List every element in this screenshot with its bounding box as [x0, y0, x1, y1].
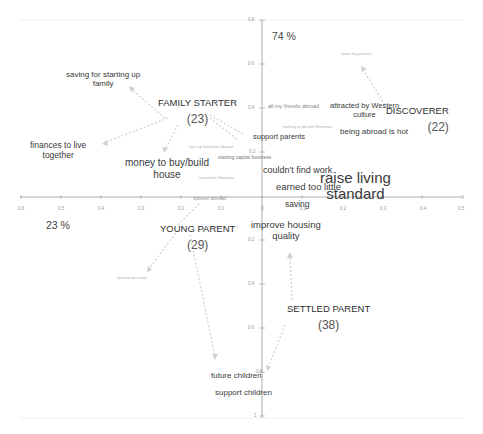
x-tick: 0.2: [178, 206, 184, 211]
label-line: quality: [272, 230, 299, 241]
point-label-finances: finances to live together: [30, 141, 86, 161]
y-tick: 1: [254, 413, 257, 418]
label-line: money to buy/build: [125, 157, 209, 168]
point-label-startup-abroad: start up business abroad: [189, 145, 233, 150]
x-tick: 0.4: [420, 206, 426, 211]
y-tick: 0.4: [248, 105, 254, 110]
x-tick: 0.6: [18, 206, 24, 211]
x-tick: 0.5: [58, 206, 64, 211]
point-label-support-parents: support parents: [253, 133, 305, 142]
cluster-name: YOUNG PARENT: [160, 223, 235, 234]
point-label-improve-housing: improve housing quality: [251, 220, 321, 242]
point-label-saving-family: saving for starting up family: [66, 70, 140, 88]
y-tick: 0.4: [248, 281, 254, 286]
point-label-spouse-lost-work: spouse lost work: [117, 276, 147, 281]
label-line: culture: [353, 110, 376, 119]
x-tick: 0.3: [138, 206, 144, 211]
cluster-young-parent: YOUNG PARENT (29): [160, 222, 235, 254]
point-label-nothing-romania: nothing to do with Romania: [283, 125, 331, 130]
upper-percent: 74 %: [272, 30, 296, 42]
x-axis: [20, 195, 463, 199]
x-tick: 0.1: [218, 206, 224, 211]
point-label-married-romania: married in Romania: [199, 176, 234, 181]
y-tick: 0.6: [248, 325, 254, 330]
cluster-name: SETTLED PARENT: [287, 303, 370, 314]
point-label-support-children: support children: [215, 388, 272, 397]
label-line: improve housing: [251, 219, 321, 230]
point-label-starting-capital: starting capital business: [218, 155, 271, 161]
cluster-count: (38): [287, 316, 370, 334]
point-label-earned-little: earned too little: [276, 182, 341, 193]
cluster-count: (29): [160, 236, 235, 254]
x-tick: 0.4: [98, 206, 104, 211]
y-tick: 0.6: [248, 61, 254, 66]
label-line: house: [153, 169, 180, 180]
correspondence-plot: [0, 0, 483, 434]
x-tick: 0.5: [458, 206, 464, 211]
point-label-western-culture: attracted by Western culture: [330, 102, 399, 119]
cluster-family-starter: FAMILY STARTER (23): [158, 96, 237, 128]
label-line: family: [93, 79, 114, 88]
point-label-abroad-hot: being abroad is hot: [340, 127, 408, 136]
point-label-saving: saving: [285, 200, 310, 210]
point-label-money-house: money to buy/build house: [125, 157, 209, 180]
x-tick: 0.3: [380, 206, 386, 211]
y-tick: 0.8: [248, 17, 254, 22]
point-label-future-children: future children: [211, 371, 262, 380]
point-label-spouse-abroad: spouse abroad: [193, 196, 226, 202]
x-tick: 0: [261, 206, 264, 211]
point-label-friends-abroad: all my friends abroad: [268, 103, 319, 109]
left-percent: 23 %: [46, 219, 70, 231]
point-label-leave-parents: leave my parents: [341, 52, 371, 57]
label-line: saving for starting up: [66, 70, 140, 79]
x-tick: 0.2: [340, 206, 346, 211]
cluster-settled-parent: SETTLED PARENT (38): [287, 302, 370, 334]
label-line: together: [43, 150, 74, 160]
cluster-count: (23): [158, 110, 237, 128]
label-line: finances to live: [30, 140, 86, 150]
cluster-name: FAMILY STARTER: [158, 97, 237, 108]
